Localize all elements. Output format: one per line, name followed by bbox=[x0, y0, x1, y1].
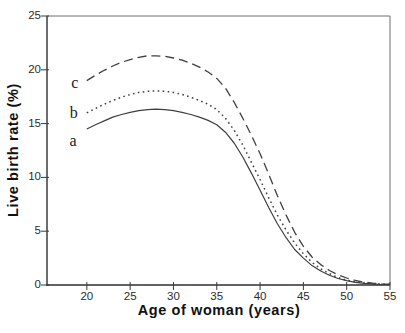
x-tick-label: 20 bbox=[80, 291, 93, 303]
x-tick-label: 35 bbox=[210, 291, 223, 303]
y-tick-label: 10 bbox=[11, 171, 41, 183]
x-tick-label: 40 bbox=[254, 291, 267, 303]
y-tick-label: 5 bbox=[11, 225, 41, 237]
curve-a bbox=[87, 109, 390, 284]
x-tick-label: 55 bbox=[384, 291, 397, 303]
x-axis-title: Age of woman (years) bbox=[138, 302, 301, 318]
x-tick-label: 30 bbox=[167, 291, 180, 303]
y-axis-title: Live birth rate (%) bbox=[5, 83, 21, 217]
curve-c bbox=[87, 56, 390, 284]
plot-svg bbox=[0, 0, 405, 333]
y-tick-label: 20 bbox=[11, 64, 41, 76]
y-tick-label: 25 bbox=[11, 10, 41, 22]
y-tick-label: 15 bbox=[11, 118, 41, 130]
x-tick-label: 45 bbox=[297, 291, 310, 303]
series-label-a: a bbox=[69, 133, 76, 149]
y-tick-label: 0 bbox=[11, 279, 41, 291]
line-chart-figure: Live birth rate (%) Age of woman (years)… bbox=[0, 0, 405, 333]
curve-b bbox=[87, 91, 390, 285]
series-label-b: b bbox=[70, 105, 78, 121]
x-tick-label: 50 bbox=[340, 291, 353, 303]
x-tick-label: 25 bbox=[124, 291, 137, 303]
series-label-c: c bbox=[71, 75, 78, 91]
